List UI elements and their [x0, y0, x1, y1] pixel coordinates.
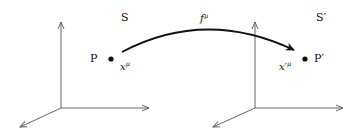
point-p-label: P [90, 52, 98, 65]
point-p [108, 56, 113, 61]
frame-s-axis-diagonal [20, 108, 61, 127]
coord-x-prime-label: x′μ [279, 60, 291, 72]
coord-x-label: xμ [120, 60, 130, 72]
point-p-prime-label: P′ [314, 52, 324, 65]
frame-s-prime-axis-diagonal [213, 108, 255, 127]
mapping-label: fμ [199, 12, 208, 24]
point-p-prime [302, 56, 307, 61]
diagram-canvas: S P xμ S′ P′ x′μ fμ [0, 0, 358, 137]
frame-s-axes [20, 22, 149, 127]
coord-x-prime-sup: μ [287, 60, 291, 68]
frame-s-prime-label: S′ [316, 11, 327, 24]
frame-s-label: S [121, 11, 129, 24]
coord-x-sup: μ [126, 60, 130, 68]
mapping-arrow [122, 29, 294, 52]
frame-s-prime-axes [213, 22, 343, 127]
mapping-label-sup: μ [204, 12, 208, 20]
